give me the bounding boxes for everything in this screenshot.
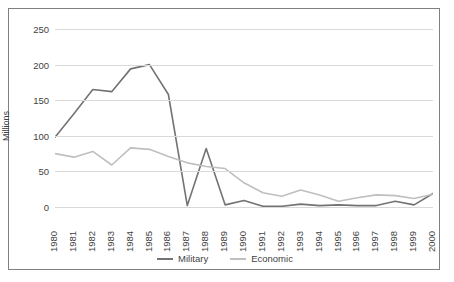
- x-axis-tick-label: 1992: [275, 231, 286, 252]
- x-axis-tick-label: 1996: [350, 231, 361, 252]
- x-axis-tick-label: 2000: [426, 231, 437, 252]
- x-axis-tick-label: 1999: [407, 231, 418, 252]
- y-axis-tick-label: 250: [33, 24, 49, 35]
- x-axis-tick-label: 1982: [86, 231, 97, 252]
- legend-swatch-icon: [157, 258, 173, 260]
- x-axis-tick-label: 1994: [313, 231, 324, 252]
- x-axis-tick-label: 1993: [294, 231, 305, 252]
- x-axis-tick-label: 1984: [124, 231, 135, 252]
- x-axis-tick-label: 1985: [143, 231, 154, 252]
- x-axis-tick-label: 1990: [237, 231, 248, 252]
- gridline: [55, 136, 433, 137]
- series-line-economic: [55, 148, 433, 201]
- x-axis-tick-label: 1989: [218, 231, 229, 252]
- gridline: [55, 171, 433, 172]
- x-axis-tick-label: 1995: [332, 231, 343, 252]
- y-axis-tick-label: 150: [33, 95, 49, 106]
- x-axis-tick-label: 1983: [105, 231, 116, 252]
- series-lines: [55, 29, 433, 207]
- y-axis-tick-label: 0: [44, 202, 49, 213]
- gridline: [55, 100, 433, 101]
- gridline: [55, 29, 433, 30]
- legend-label: Economic: [251, 253, 293, 264]
- x-axis-tick-label: 1987: [180, 231, 191, 252]
- gridline: [55, 65, 433, 66]
- legend-item-military[interactable]: Military: [157, 253, 208, 264]
- x-axis-tick-label: 1997: [369, 231, 380, 252]
- legend-swatch-icon: [230, 258, 246, 260]
- y-axis-title: Millions: [1, 111, 11, 141]
- x-axis-tick-label: 1991: [256, 231, 267, 252]
- chart-legend: MilitaryEconomic: [9, 253, 441, 264]
- legend-item-economic[interactable]: Economic: [230, 253, 293, 264]
- y-axis-tick-label: 100: [33, 130, 49, 141]
- x-axis-tick-label: 1981: [67, 231, 78, 252]
- plot-area: 050100150200250: [55, 29, 433, 207]
- y-axis-tick-label: 200: [33, 59, 49, 70]
- gridline: [55, 207, 433, 208]
- legend-label: Military: [178, 253, 208, 264]
- x-axis-labels: 1980198119821983198419851986198719881989…: [55, 210, 433, 252]
- x-axis-tick-label: 1988: [199, 231, 210, 252]
- chart-container: Millions 050100150200250 198019811982198…: [8, 8, 440, 270]
- x-axis-tick-label: 1980: [48, 231, 59, 252]
- y-axis-tick-label: 50: [38, 166, 49, 177]
- x-axis-tick-label: 1986: [161, 231, 172, 252]
- x-axis-tick-label: 1998: [388, 231, 399, 252]
